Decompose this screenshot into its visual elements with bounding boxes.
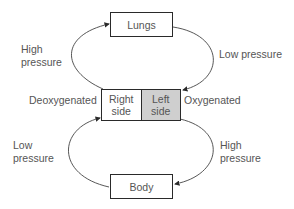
heart-left-line1: Left [152, 93, 170, 105]
label-line: High [21, 43, 43, 55]
body-node: Body [110, 174, 173, 199]
arrow-right-side-to-lungs [71, 24, 109, 89]
heart-left-line2: side [151, 105, 170, 117]
heart-left-label: Left side [151, 93, 170, 117]
label-line: pressure [220, 152, 261, 164]
arrow-lungs-to-left-side [173, 27, 213, 90]
label-low-pressure-top-right: Low pressure [219, 48, 282, 61]
label-high-pressure-top-left: High pressure [21, 43, 62, 69]
label-line: Low [13, 139, 32, 151]
heart-left-side: Left side [141, 90, 181, 120]
label-oxygenated: Oxygenated [184, 94, 241, 107]
label-line: pressure [13, 152, 54, 164]
label-line: High [220, 139, 242, 151]
heart-right-line1: Right [109, 93, 134, 105]
label-deoxygenated: Deoxygenated [29, 94, 97, 107]
arrow-body-to-right-side [68, 118, 109, 187]
label-high-pressure-bottom-right: High pressure [220, 139, 261, 165]
heart-node: Right side Left side [101, 89, 181, 121]
arrow-left-side-to-body [175, 119, 213, 184]
heart-right-line2: side [112, 105, 131, 117]
heart-right-side: Right side [102, 90, 141, 120]
lungs-node: Lungs [110, 12, 173, 37]
lungs-label: Lungs [127, 19, 156, 31]
label-line: pressure [21, 56, 62, 68]
body-label: Body [130, 181, 154, 193]
label-low-pressure-bottom-left: Low pressure [13, 139, 54, 165]
heart-right-label: Right side [109, 93, 134, 117]
